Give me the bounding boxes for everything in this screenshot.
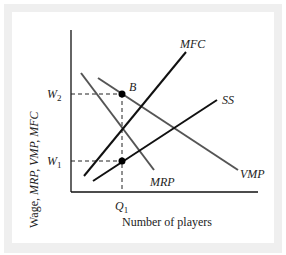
- point-w1: [119, 158, 126, 165]
- q1-label: Q1: [115, 199, 128, 215]
- q1-sub: 1: [124, 205, 129, 215]
- w1-label: W1: [47, 154, 62, 170]
- mfc-curve: [84, 52, 186, 176]
- w2-sub: 2: [57, 93, 62, 103]
- point-b-label: B: [129, 80, 137, 94]
- ss-label: SS: [222, 93, 234, 107]
- w2-label: W2: [47, 87, 62, 103]
- mfc-label: MFC: [179, 37, 206, 51]
- y-axis-title-italic: MRP, VMP, MFC: [27, 110, 41, 196]
- vmp-label: VMP: [240, 167, 265, 181]
- diagram: MFC SS MRP VMP B W2 W1 Q1 Number of play…: [0, 0, 286, 255]
- point-b: [119, 91, 126, 98]
- x-axis-title: Number of players: [122, 215, 212, 229]
- q1-main: Q: [115, 199, 124, 213]
- mrp-label: MRP: [149, 175, 175, 189]
- y-axis-title: Wage, MRP, VMP, MFC: [27, 110, 41, 228]
- mrp-curve: [81, 73, 154, 170]
- y-axis-title-prefix: Wage,: [27, 195, 41, 228]
- w1-sub: 1: [57, 160, 62, 170]
